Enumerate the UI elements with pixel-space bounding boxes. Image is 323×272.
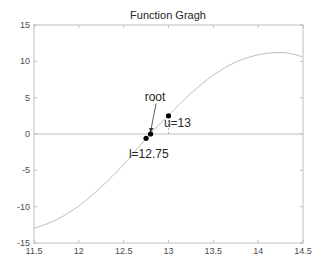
x-tick-label: 13 xyxy=(163,246,173,256)
y-tick-label: 5 xyxy=(25,93,30,103)
y-tick-label: 0 xyxy=(25,129,30,139)
point-root xyxy=(148,131,153,136)
y-tick-label: 15 xyxy=(20,20,30,30)
x-tick-label: 12 xyxy=(74,246,84,256)
point-u xyxy=(166,113,171,118)
y-tick-label: -15 xyxy=(17,238,30,248)
annotation-root: root xyxy=(145,90,166,104)
plot-area: 11.51212.51313.51414.5-15-10-5051015root… xyxy=(17,20,312,256)
chart-title: Function Gragh xyxy=(130,9,206,21)
x-tick-label: 14.5 xyxy=(294,246,312,256)
x-tick-label: 14 xyxy=(253,246,263,256)
y-tick-label: -10 xyxy=(17,202,30,212)
y-tick-label: 10 xyxy=(20,56,30,66)
y-tick-label: -5 xyxy=(22,165,30,175)
x-tick-label: 12.5 xyxy=(115,246,133,256)
chart-canvas: Function Gragh 11.51212.51313.51414.5-15… xyxy=(0,0,323,272)
function-graph-chart: Function Gragh 11.51212.51313.51414.5-15… xyxy=(0,0,323,272)
annotation-l-12-75: l=12.75 xyxy=(129,147,169,161)
point-l xyxy=(143,136,148,141)
x-tick-label: 13.5 xyxy=(205,246,223,256)
